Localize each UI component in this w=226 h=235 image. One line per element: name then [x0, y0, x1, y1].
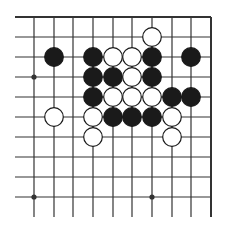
- white-stone: [123, 48, 142, 67]
- white-stone: [163, 128, 182, 147]
- white-stone: [45, 108, 64, 127]
- black-stone: [182, 48, 201, 67]
- black-stone: [123, 108, 142, 127]
- white-stone: [84, 108, 103, 127]
- black-stone: [143, 108, 162, 127]
- white-stone: [84, 128, 103, 147]
- star-point: [149, 194, 154, 199]
- white-stone: [143, 88, 162, 107]
- go-board: [0, 0, 226, 235]
- black-stone: [45, 48, 64, 67]
- black-stone: [84, 68, 103, 87]
- black-stone: [84, 88, 103, 107]
- white-stone: [104, 88, 123, 107]
- black-stone: [84, 48, 103, 67]
- star-point: [31, 194, 36, 199]
- black-stone: [104, 108, 123, 127]
- stones-layer: [45, 28, 201, 147]
- black-stone: [182, 88, 201, 107]
- black-stone: [143, 48, 162, 67]
- white-stone: [123, 88, 142, 107]
- white-stone: [104, 48, 123, 67]
- star-point: [31, 74, 36, 79]
- black-stone: [163, 88, 182, 107]
- black-stone: [104, 68, 123, 87]
- white-stone: [163, 108, 182, 127]
- black-stone: [143, 68, 162, 87]
- white-stone: [143, 28, 162, 47]
- white-stone: [123, 68, 142, 87]
